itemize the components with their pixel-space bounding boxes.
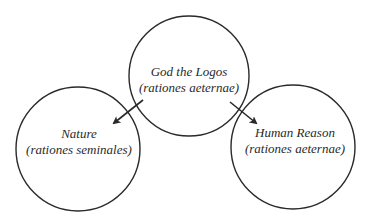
arrow-god-to-nature <box>114 100 143 123</box>
diagram-canvas: God the Logos (rationes aeternae) Nature… <box>0 0 373 213</box>
arrow-god-to-human-reason <box>230 102 256 123</box>
god-subtitle: (rationes aeternae) <box>139 80 239 95</box>
node-nature: Nature (rationes seminales) <box>16 87 140 211</box>
nature-subtitle: (rationes seminales) <box>26 142 132 157</box>
node-god-the-logos: God the Logos (rationes aeternae) <box>129 16 249 136</box>
node-human-reason: Human Reason (rationes aeternae) <box>231 85 355 209</box>
human-reason-title: Human Reason <box>254 125 335 140</box>
human-reason-subtitle: (rationes aeternae) <box>245 141 345 156</box>
nature-title: Nature <box>60 126 97 141</box>
god-title: God the Logos <box>151 64 228 79</box>
